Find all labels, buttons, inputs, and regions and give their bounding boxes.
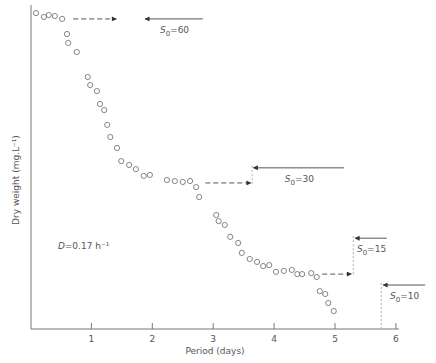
data-point [194, 185, 199, 190]
data-point [323, 291, 328, 296]
data-point [60, 16, 65, 21]
data-point [261, 263, 266, 268]
data-point [214, 212, 219, 217]
data-point [85, 74, 90, 79]
data-point [236, 240, 241, 245]
x-tick-label: 5 [332, 334, 338, 344]
annotations: D=0.17 h⁻¹S0=60S0=30S0=15S0=10 [58, 19, 425, 329]
data-point [314, 274, 319, 279]
x-tick-label: 3 [210, 334, 216, 344]
y-axis-label: Dry weight (mg.L⁻¹) [11, 135, 21, 225]
data-point [331, 308, 336, 313]
data-point [147, 172, 152, 177]
data-point [197, 194, 202, 199]
data-point [41, 14, 46, 19]
data-point [46, 12, 51, 17]
dilution-rate-label: D=0.17 h⁻¹ [58, 241, 110, 251]
data-point [108, 134, 113, 139]
data-point [216, 219, 221, 224]
x-axis-label: Period (days) [185, 346, 244, 356]
data-point [66, 40, 71, 45]
data-point [164, 177, 169, 182]
substrate-label: S0=30 [285, 174, 314, 187]
data-point [119, 159, 124, 164]
data-point [64, 31, 69, 36]
data-point [289, 267, 294, 272]
data-point [33, 11, 38, 16]
data-point [239, 250, 244, 255]
data-point [141, 173, 146, 178]
x-tick-label: 4 [271, 334, 277, 344]
chart: 123456 Period (days) Dry weight (mg.L⁻¹)… [0, 0, 436, 363]
data-point [281, 268, 286, 273]
data-point [317, 289, 322, 294]
data-point [52, 13, 57, 18]
data-point [172, 178, 177, 183]
substrate-label: S0=60 [160, 25, 189, 38]
data-point [267, 263, 272, 268]
data-point [105, 122, 110, 127]
substrate-label: S0=15 [357, 244, 386, 257]
data-point [74, 49, 79, 54]
data-point [300, 272, 305, 277]
x-ticks: 123456 [89, 323, 400, 344]
data-point [133, 167, 138, 172]
data-point [273, 269, 278, 274]
data-point [295, 272, 300, 277]
data-point [228, 234, 233, 239]
data-point [114, 145, 119, 150]
data-point [187, 178, 192, 183]
data-point [309, 271, 314, 276]
data-point [88, 82, 93, 87]
x-tick-label: 6 [393, 334, 399, 344]
data-point [180, 179, 185, 184]
x-tick-label: 1 [89, 334, 95, 344]
substrate-label: S0=10 [390, 291, 419, 304]
data-point [94, 89, 99, 94]
data-point [97, 101, 102, 106]
data-point [254, 259, 259, 264]
data-point [326, 300, 331, 305]
data-points [33, 11, 336, 314]
x-tick-label: 2 [149, 334, 155, 344]
data-point [222, 222, 227, 227]
data-point [247, 256, 252, 261]
axes [31, 5, 399, 329]
data-point [102, 107, 107, 112]
data-point [127, 162, 132, 167]
